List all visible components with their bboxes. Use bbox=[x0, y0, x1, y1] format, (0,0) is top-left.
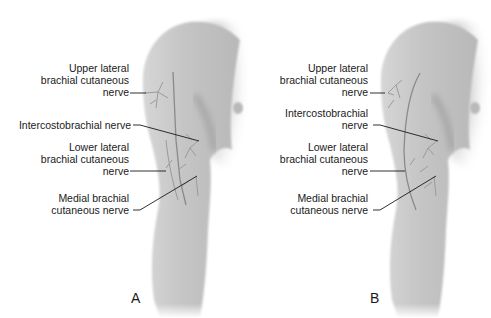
label-lower-lateral-brachial-a: Lower lateral brachial cutaneous nerve bbox=[41, 141, 129, 177]
label-line: nerve bbox=[280, 86, 368, 98]
label-line: Upper lateral bbox=[280, 62, 368, 74]
label-medial-brachial-a: Medial brachial cutaneous nerve bbox=[51, 192, 129, 216]
label-line: Intercostobrachial nerve bbox=[19, 119, 131, 131]
label-line: brachial cutaneous bbox=[41, 74, 129, 86]
label-upper-lateral-brachial-b: Upper lateral brachial cutaneous nerve bbox=[280, 62, 368, 98]
label-medial-brachial-b: Medial brachial cutaneous nerve bbox=[290, 192, 368, 216]
label-line: Lower lateral bbox=[41, 141, 129, 153]
label-line: Medial brachial bbox=[51, 192, 129, 204]
panel-letter-b: B bbox=[370, 290, 379, 306]
label-line: brachial cutaneous bbox=[280, 74, 368, 86]
label-intercostobrachial-b: Intercostobrachial nerve bbox=[285, 107, 368, 131]
label-line: nerve bbox=[41, 86, 129, 98]
label-line: nerve bbox=[41, 165, 129, 177]
panel-letter-a: A bbox=[131, 290, 140, 306]
label-line: cutaneous nerve bbox=[51, 204, 129, 216]
label-line: Intercostobrachial bbox=[285, 107, 368, 119]
nerve-diagram-figure: Upper lateral brachial cutaneous nerve I… bbox=[0, 0, 491, 318]
panel-a-arm bbox=[130, 21, 250, 318]
label-line: brachial cutaneous bbox=[41, 153, 129, 165]
label-line: brachial cutaneous bbox=[280, 153, 368, 165]
label-upper-lateral-brachial-a: Upper lateral brachial cutaneous nerve bbox=[41, 62, 129, 98]
label-line: nerve bbox=[280, 165, 368, 177]
label-line: cutaneous nerve bbox=[290, 204, 368, 216]
label-intercostobrachial-a: Intercostobrachial nerve bbox=[19, 119, 131, 131]
panel-b-arm bbox=[370, 21, 491, 318]
label-line: Medial brachial bbox=[290, 192, 368, 204]
label-line: Lower lateral bbox=[280, 141, 368, 153]
label-line: Upper lateral bbox=[41, 62, 129, 74]
label-lower-lateral-brachial-b: Lower lateral brachial cutaneous nerve bbox=[280, 141, 368, 177]
label-line: nerve bbox=[285, 119, 368, 131]
